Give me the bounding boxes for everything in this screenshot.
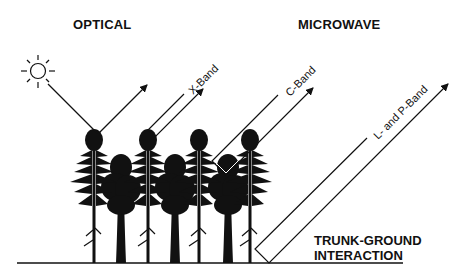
trunk-ground-annotation: TRUNK-GROUND INTERACTION bbox=[314, 233, 422, 263]
diagram-canvas: OPTICAL MICROWAVE bbox=[0, 0, 469, 279]
annotation-line-2: INTERACTION bbox=[314, 248, 422, 263]
forest bbox=[70, 129, 272, 263]
optical-path bbox=[48, 84, 147, 134]
sun-icon bbox=[21, 55, 55, 88]
annotation-line-1: TRUNK-GROUND bbox=[314, 233, 422, 248]
